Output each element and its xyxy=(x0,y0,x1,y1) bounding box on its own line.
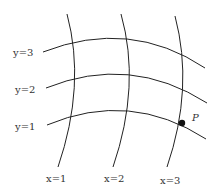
label-y3: y=3 xyxy=(12,47,33,58)
point-p-label: P xyxy=(191,112,199,123)
label-y1: y=1 xyxy=(14,121,35,132)
label-x1: x=1 xyxy=(46,173,66,184)
coordinate-grid-diagram: P y=3 y=2 y=1 x=1 x=2 x=3 xyxy=(0,0,217,191)
label-y2: y=2 xyxy=(14,84,35,95)
curve-x2 xyxy=(113,14,129,167)
point-p-marker xyxy=(179,120,185,126)
label-x2: x=2 xyxy=(104,173,124,184)
label-x3: x=3 xyxy=(160,175,180,186)
curve-x1 xyxy=(58,14,75,167)
curve-x3 xyxy=(167,16,183,167)
